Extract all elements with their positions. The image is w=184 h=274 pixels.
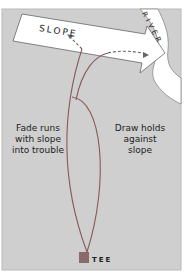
golf-slope-diagram: SLOPE RIVER Fade runs with slope into tr… (0, 0, 184, 274)
fade-caption: Fade runs with slope into trouble (8, 123, 68, 156)
tee-marker (79, 252, 89, 263)
fade-caption-line: into trouble (8, 145, 68, 156)
draw-caption-line: Draw holds (110, 123, 170, 134)
tee-label: TEE (92, 255, 112, 266)
draw-caption-line: slope (110, 145, 170, 156)
draw-caption: Draw holds against slope (110, 123, 170, 156)
fade-caption-line: Fade runs (8, 123, 68, 134)
fade-caption-line: with slope (8, 134, 68, 145)
draw-caption-line: against (110, 134, 170, 145)
